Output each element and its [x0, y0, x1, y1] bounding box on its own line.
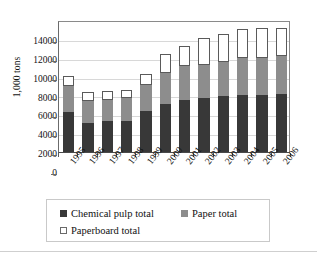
bar-segment — [256, 58, 268, 95]
bar-group — [63, 20, 75, 152]
bar-segment — [179, 66, 191, 100]
bar-group — [256, 20, 268, 152]
y-axis-tick-mark — [51, 42, 57, 43]
bar-segment — [218, 96, 230, 152]
bar-segment — [82, 101, 94, 123]
y-axis-tick-mark — [51, 99, 57, 100]
y-axis-tick-mark — [51, 61, 57, 62]
white-square-swatch — [60, 227, 67, 234]
y-axis-tick-label: 10000 — [9, 75, 57, 85]
bar-segment — [276, 28, 288, 56]
y-axis-tick-mark — [51, 174, 57, 175]
bar-segment — [63, 86, 75, 112]
bar-segment — [63, 112, 75, 152]
bar-segment — [121, 98, 133, 121]
bar-group — [121, 20, 133, 152]
page-edge-line — [0, 251, 317, 252]
y-axis-tick-label: 12000 — [9, 56, 57, 66]
bar-segment — [198, 98, 210, 152]
bar-segment — [121, 90, 133, 98]
legend-item-label: Chemical pulp total — [71, 208, 154, 219]
bar-group — [160, 20, 172, 152]
bar-segment — [179, 100, 191, 152]
bar-segment — [140, 74, 152, 85]
y-axis-tick-mark — [51, 136, 57, 137]
bar-segment — [256, 95, 268, 152]
y-axis-tick-label: 4000 — [9, 131, 57, 141]
bar-segment — [237, 29, 249, 58]
legend-item: Paperboard total — [60, 225, 140, 236]
gray-square-swatch — [181, 210, 188, 217]
bar-segment — [276, 56, 288, 94]
bar-segment — [198, 38, 210, 65]
legend-item-label: Paper total — [192, 208, 237, 219]
y-axis-tick-label: 14000 — [9, 37, 57, 47]
bar-segment — [237, 58, 249, 96]
bar-group — [179, 20, 191, 152]
bar-segment — [276, 94, 288, 152]
bar-segment — [102, 91, 114, 99]
y-axis-tick-mark — [51, 80, 57, 81]
y-axis-tick-label: 8000 — [9, 94, 57, 104]
bar-segment — [160, 73, 172, 104]
y-axis-tick-mark — [51, 155, 57, 156]
y-axis-tick-label: 6000 — [9, 112, 57, 122]
bar-segment — [237, 95, 249, 152]
bars-layer — [59, 22, 289, 152]
bar-group — [218, 20, 230, 152]
plot-area — [58, 21, 290, 153]
legend-item: Paper total — [181, 208, 237, 219]
legend-item: Chemical pulp total — [60, 208, 154, 219]
bar-segment — [218, 62, 230, 96]
bar-group — [82, 20, 94, 152]
y-axis-tick-column: 14000120001000080006000400020000 — [0, 21, 57, 153]
x-axis-tick-mark — [58, 153, 59, 157]
bar-segment — [140, 85, 152, 110]
bar-group — [198, 20, 210, 152]
y-axis-tick-mark — [51, 117, 57, 118]
bar-segment — [102, 121, 114, 152]
stacked-bar-chart: 1,000 tons 14000120001000080006000400020… — [0, 0, 317, 254]
dark-square-swatch — [60, 210, 67, 217]
bar-group — [237, 20, 249, 152]
bar-segment — [63, 76, 75, 86]
bar-segment — [198, 65, 210, 98]
y-axis-tick-label: 2000 — [9, 150, 57, 160]
bar-segment — [256, 28, 268, 58]
bar-segment — [82, 92, 94, 100]
bar-segment — [102, 100, 114, 122]
bar-segment — [179, 46, 191, 66]
bar-segment — [160, 104, 172, 152]
bar-segment — [218, 34, 230, 62]
chart-legend: Chemical pulp totalPaper totalPaperboard… — [46, 199, 270, 242]
y-axis-tick-label: 0 — [9, 169, 57, 179]
bar-group — [102, 20, 114, 152]
legend-item-label: Paperboard total — [71, 225, 140, 236]
bar-group — [276, 20, 288, 152]
bar-group — [140, 20, 152, 152]
bar-segment — [140, 111, 152, 152]
bar-segment — [160, 54, 172, 72]
